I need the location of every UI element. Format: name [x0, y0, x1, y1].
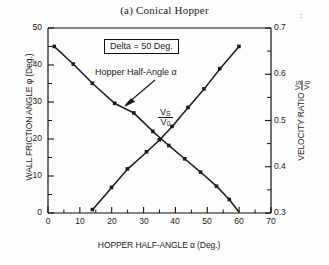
- vs-den-sub: 0: [304, 81, 311, 85]
- x-tick-50: 50: [195, 216, 219, 226]
- vs-num: V: [293, 85, 302, 90]
- x-tick-70: 70: [259, 216, 283, 226]
- y-axis-right-title-fraction: VS V0: [294, 80, 311, 90]
- x-tick-30: 30: [132, 216, 156, 226]
- velocity-ratio-curve-label: VS V0: [158, 108, 173, 128]
- vsvo-den-sub: 0: [166, 120, 170, 127]
- y-axis-left-title: WALL FRICTION ANGLE φ (Deg.): [24, 27, 34, 207]
- x-tick-0: 0: [36, 216, 60, 226]
- vs-den: V: [302, 85, 311, 90]
- vsvo-num-sub: S: [166, 110, 171, 117]
- x-tick-40: 40: [163, 216, 187, 226]
- figure-panel: (a) Conical Hopper :: [0, 0, 329, 265]
- hopper-half-angle-label: Hopper Half-Angle α: [95, 67, 177, 77]
- delta-annotation-box: Delta = 50 Deg.: [104, 39, 179, 54]
- y-axis-right-title-text: VELOCITY RATIO: [296, 92, 306, 160]
- vs-num-sub: S: [295, 80, 302, 85]
- x-tick-10: 10: [68, 216, 92, 226]
- y-axis-right-title: VELOCITY RATIO VS V0: [294, 31, 311, 211]
- hopper-half-angle-arrow: [125, 80, 155, 106]
- x-tick-60: 60: [227, 216, 251, 226]
- x-tick-20: 20: [100, 216, 124, 226]
- x-axis-title: HOPPER HALF-ANGLE α (Deg.): [44, 240, 274, 250]
- y-right-ticks: [265, 28, 271, 213]
